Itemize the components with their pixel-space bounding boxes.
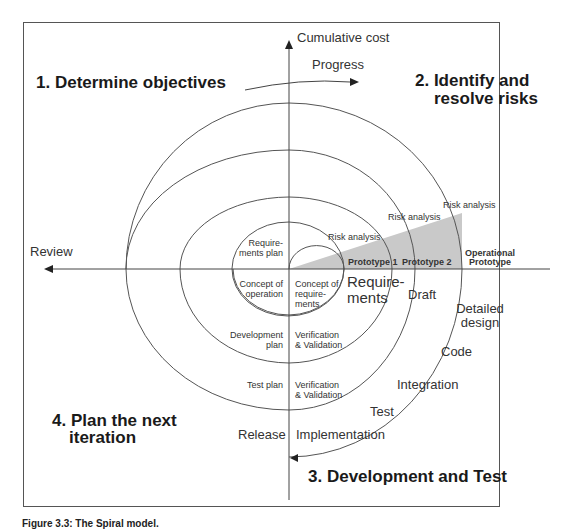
cumulative-cost-label: Cumulative cost [297, 31, 389, 45]
test: Test [370, 405, 394, 419]
concept-of-operation-line2: operation [220, 290, 283, 299]
development-arrow-icon [290, 454, 298, 462]
code: Code [441, 345, 472, 359]
release: Release [238, 428, 286, 442]
progress-arrow-icon [350, 78, 359, 86]
prototype-2: Prototype 2 [402, 258, 452, 267]
draft: Draft [408, 288, 436, 302]
spiral-ring-4 [126, 103, 462, 457]
phase-1-title: 1. Determine objectives [36, 74, 226, 92]
requirements-line2: ments [347, 290, 388, 306]
detailed-design-line2: design [450, 316, 510, 330]
vertical-axis-arrow-icon [285, 40, 293, 49]
risk-analysis-3: Risk analysis [443, 201, 496, 210]
requirements-line1: Require- [347, 274, 405, 290]
phase-2-title-line2: resolve risks [434, 90, 538, 108]
figure-caption: Figure 3.3: The Spiral model. [22, 518, 159, 529]
phase-4-title-line2: iteration [69, 429, 136, 447]
development-plan-line2: plan [210, 341, 283, 350]
phase-2-title-line1: 2. Identify and [415, 72, 529, 90]
concept-of-requirements-line3: ments [295, 300, 320, 309]
phase-3-title: 3. Development and Test [308, 468, 507, 486]
risk-analysis-2: Risk analysis [388, 213, 441, 222]
detailed-design-line1: Detailed [450, 302, 510, 316]
review-arrow-icon [44, 265, 53, 273]
verification-validation-2-line2: & Validation [295, 391, 342, 400]
implementation: Implementation [296, 428, 385, 442]
risk-analysis-1: Risk analysis [328, 233, 381, 242]
progress-arrow [245, 81, 350, 90]
review-label: Review [30, 245, 73, 259]
requirements-plan-line2: ments plan [220, 249, 283, 258]
test-plan: Test plan [210, 381, 283, 390]
verification-validation-1-line2: & Validation [295, 341, 342, 350]
operational-prototype-line2: Prototype [459, 258, 521, 267]
progress-label: Progress [312, 58, 364, 72]
integration: Integration [397, 378, 458, 392]
prototype-1: Prototype 1 [348, 258, 398, 267]
